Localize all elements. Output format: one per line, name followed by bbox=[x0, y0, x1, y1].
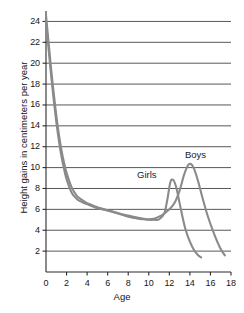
data-series-layer bbox=[46, 15, 225, 257]
series-line-girls bbox=[46, 21, 201, 257]
y-tick-label-4: 4 bbox=[18, 226, 40, 235]
x-tick-label-12: 12 bbox=[158, 279, 180, 288]
axis-lines bbox=[46, 11, 231, 272]
y-tick-label-24: 24 bbox=[18, 17, 40, 26]
x-tick-label-18: 18 bbox=[220, 279, 242, 288]
plot-area bbox=[0, 0, 244, 313]
y-tick-label-22: 22 bbox=[18, 38, 40, 47]
x-tick-label-6: 6 bbox=[97, 279, 119, 288]
x-tick-label-14: 14 bbox=[179, 279, 201, 288]
x-tick-label-10: 10 bbox=[138, 279, 160, 288]
y-axis-title: Height gains in centimeters per year bbox=[18, 53, 29, 223]
x-tick-label-4: 4 bbox=[76, 279, 98, 288]
x-axis-title: Age bbox=[0, 291, 244, 302]
series-label-girls: Girls bbox=[137, 169, 157, 180]
x-tick-label-2: 2 bbox=[56, 279, 78, 288]
x-tick-label-8: 8 bbox=[117, 279, 139, 288]
x-tick-label-16: 16 bbox=[199, 279, 221, 288]
series-line-boys bbox=[46, 15, 225, 255]
x-tick-label-0: 0 bbox=[35, 279, 57, 288]
growth-velocity-chart: 24681012141618202224 024681012141618 Hei… bbox=[0, 0, 244, 313]
series-label-boys: Boys bbox=[185, 149, 206, 160]
y-tick-label-2: 2 bbox=[18, 247, 40, 256]
